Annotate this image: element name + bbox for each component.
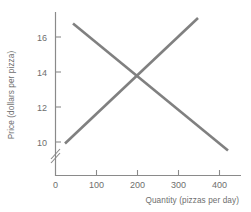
x-axis-title: Quantity (pizzas per day) <box>145 196 239 205</box>
supply-curve <box>65 18 198 144</box>
x-tick-label-400: 400 <box>212 180 227 190</box>
x-tick-label-100: 100 <box>89 180 104 190</box>
y-tick-label-14: 14 <box>37 68 47 78</box>
y-axis-title: Price (dollars per pizza) <box>7 51 16 140</box>
x-tick-label-200: 200 <box>130 180 145 190</box>
x-tick-label-0: 0 <box>53 180 58 190</box>
supply-demand-chart: 16 14 12 10 0 100 200 300 400 Quantity (… <box>0 0 251 212</box>
x-tick-label-300: 300 <box>171 180 186 190</box>
y-tick-label-10: 10 <box>37 138 47 148</box>
y-axis-ticks <box>56 37 62 142</box>
y-tick-label-12: 12 <box>37 103 47 113</box>
y-tick-label-16: 16 <box>37 33 47 43</box>
demand-curve <box>73 24 228 151</box>
x-axis-ticks <box>97 170 220 176</box>
chart-canvas: 16 14 12 10 0 100 200 300 400 Quantity (… <box>0 0 251 212</box>
